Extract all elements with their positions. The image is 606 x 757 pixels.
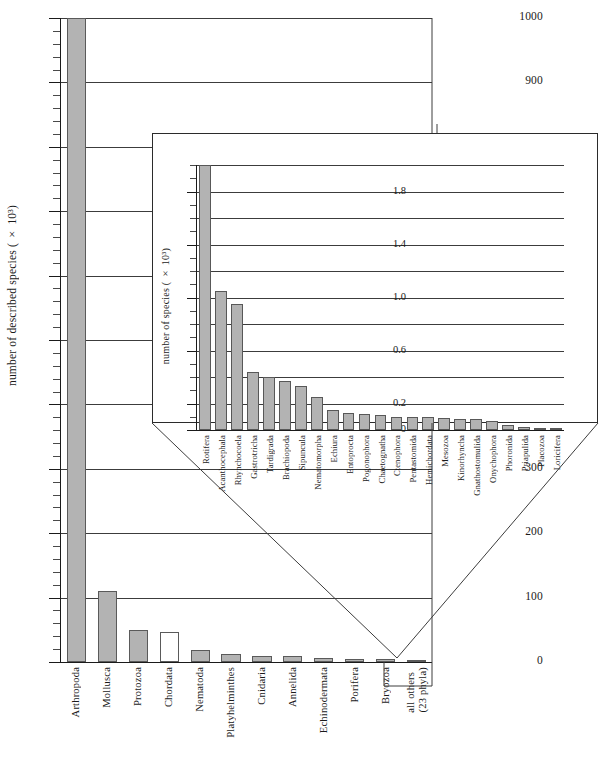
- inset-x-tick-label: Ctenophora: [392, 435, 402, 478]
- inset-x-tick-label-text: Chaetognatha: [377, 435, 387, 483]
- inset-x-tick-label: Echiura: [329, 435, 339, 464]
- inset-x-tick-label: Tardigrada: [265, 435, 275, 475]
- inset-x-axis-tick-labels: RotiferaAcanthocephalaRhynchocoelaGastro…: [0, 0, 606, 757]
- inset-x-tick-label-text: Kinorhyncha: [456, 435, 466, 481]
- inset-x-tick-label-text: Tardigrada: [265, 435, 275, 473]
- inset-x-tick-label: Chaetognatha: [377, 435, 387, 485]
- inset-x-tick-label-text: Gastrotricha: [249, 435, 259, 479]
- inset-x-tick-label: Mesozoa: [440, 435, 450, 469]
- inset-x-tick-label-text: Rhynchocoela: [233, 435, 243, 485]
- inset-x-tick-label-text: Brachiopoda: [281, 435, 291, 480]
- inset-x-tick-label-text: Echiura: [329, 435, 339, 462]
- inset-x-tick-label-text: Phoronida: [504, 435, 514, 471]
- inset-x-tick-label: Rhynchocoela: [233, 435, 243, 487]
- figure-root: number of described species ( × 10³) 010…: [0, 0, 606, 757]
- inset-x-tick-label: Sipuncula: [297, 435, 307, 472]
- inset-x-tick-label-text: Hemichordata: [424, 435, 434, 485]
- inset-x-tick-label-text: Sipuncula: [297, 435, 307, 470]
- inset-x-tick-label-text: Ctenophora: [392, 435, 402, 476]
- inset-x-tick-label: Entoprocta: [345, 435, 355, 476]
- inset-x-tick-label: Priapulida: [520, 435, 530, 473]
- inset-x-tick-label: Loricifera: [552, 435, 562, 472]
- inset-x-tick-label: Pentastomida: [408, 435, 418, 485]
- inset-x-tick-label-text: Rotifera: [201, 435, 211, 464]
- inset-x-tick-label-text: Priapulida: [520, 435, 530, 471]
- inset-x-tick-label: Placozoa: [536, 435, 546, 469]
- inset-x-tick-label-text: Loricifera: [552, 435, 562, 470]
- inset-x-tick-label-text: Placozoa: [536, 435, 546, 467]
- inset-x-tick-label-text: Entoprocta: [345, 435, 355, 474]
- inset-x-tick-label-text: Acanthocephala: [217, 435, 227, 492]
- inset-x-tick-label: Hemichordata: [424, 435, 434, 487]
- inset-x-tick-label-text: Gnathostomulida: [472, 435, 482, 496]
- inset-x-tick-label: Pogonophora: [361, 435, 371, 484]
- inset-x-tick-label: Nematomorpha: [313, 435, 323, 492]
- inset-x-tick-label: Rotifera: [201, 435, 211, 466]
- inset-x-tick-label: Onychophora: [488, 435, 498, 485]
- inset-x-tick-label-text: Onychophora: [488, 435, 498, 483]
- inset-x-tick-label: Gastrotricha: [249, 435, 259, 481]
- inset-x-tick-label-text: Pentastomida: [408, 435, 418, 483]
- inset-x-tick-label: Gnathostomulida: [472, 435, 482, 498]
- inset-x-tick-label: Phoronida: [504, 435, 514, 473]
- inset-x-tick-label-text: Pogonophora: [361, 435, 371, 482]
- inset-x-tick-label: Brachiopoda: [281, 435, 291, 482]
- inset-x-tick-label: Acanthocephala: [217, 435, 227, 494]
- inset-x-tick-label-text: Mesozoa: [440, 435, 450, 467]
- inset-x-tick-label: Kinorhyncha: [456, 435, 466, 483]
- inset-x-tick-label-text: Nematomorpha: [313, 435, 323, 490]
